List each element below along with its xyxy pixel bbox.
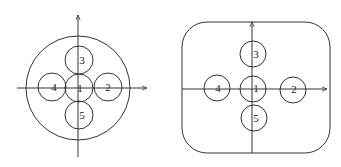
circle-label: 4 (215, 82, 221, 94)
numbered-circle-2: 2 (94, 73, 122, 101)
numbered-circle-5: 5 (241, 105, 267, 131)
circle-label: 3 (253, 48, 259, 60)
circle-label: 5 (79, 109, 85, 121)
numbered-circle-4: 4 (38, 73, 66, 101)
figure-left-circular-layout: 12345 (17, 15, 147, 157)
diagram-canvas: 12345 12345 (0, 0, 341, 167)
circle-label: 5 (253, 112, 259, 124)
figure-right-square-layout: 12345 (182, 22, 330, 153)
circle-label: 4 (51, 81, 57, 93)
circle-label: 1 (253, 82, 259, 94)
numbered-circle-3: 3 (65, 46, 93, 74)
numbered-circle-4: 4 (204, 75, 230, 101)
circle-label: 2 (105, 81, 111, 93)
numbered-circle-5: 5 (65, 101, 93, 129)
circle-label: 3 (79, 54, 85, 66)
numbered-circle-2: 2 (280, 77, 306, 103)
numbered-circle-3: 3 (240, 41, 266, 67)
